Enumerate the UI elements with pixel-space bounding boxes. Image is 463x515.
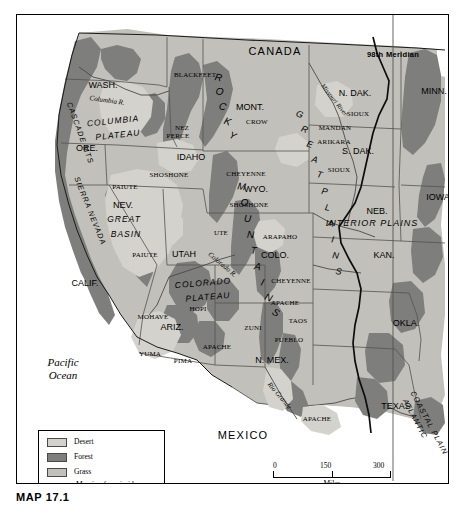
state-label-sdak: S. DAK. [342,147,374,156]
tribe-label-pima-23: PIMA [174,358,192,365]
tribe-label-apache-25: APACHE [303,416,332,423]
tribe-label-apache-24: APACHE [203,344,232,351]
tribe-label-arikara-6: ARIKARA [317,139,350,146]
legend-item-forest: Forest [47,453,93,462]
scale-unit-label: Miles [273,479,391,484]
arc-label-plains-letter-4: N [332,251,341,261]
tribe-label-ute-13: UTE [214,230,228,237]
physiographic-label-interiorplains-6: INTERIOR PLAINS [326,219,419,228]
tribe-label-pueblo-20: PUEBLO [275,337,303,344]
tribe-label-yuma-22: YUMA [139,351,161,358]
tribe-label-crow-1: CROW [246,119,268,126]
arc-label-mountains-letter-1: O [240,198,250,209]
tribe-label-shoshone-4: SHOSHONE [150,172,189,179]
tribe-label-taos-19: TAOS [289,318,308,325]
tribe-label-blackfeet-0: BLACKFEET [174,72,216,79]
state-label-neb: NEB. [366,207,387,216]
legend-swatch-desert [47,438,67,447]
arc-label-mountains-letter-4: T [250,246,258,257]
ocean-label-1: Ocean [49,370,78,381]
legend-swatch-forest [47,453,67,462]
state-label-kan: KAN. [373,251,394,260]
country-label-mexico: MEXICO [218,430,269,441]
state-label-calif: CALIF. [71,279,98,288]
arc-label-mountains-letter-5: A [253,261,262,272]
state-label-mont: MONT. [236,103,264,112]
tribe-label-paiute-12: PAIUTE [132,252,157,259]
legend-label-forest: Forest [74,453,93,462]
scale-bar: 0 150 300 Miles [273,461,391,484]
scale-tick-0: 0 [273,461,277,470]
state-label-idaho: IDAHO [177,153,206,162]
state-label-iowa: IOWA [426,193,449,202]
legend-item-desert: Desert [47,438,94,447]
state-label-ariz: ARIZ. [160,323,183,332]
arc-label-plains-letter-5: S [335,267,343,277]
legend-item-grass: Grass [47,468,91,477]
arc-label-mountains-letter-2: U [244,214,253,225]
state-label-nev: NEV. [113,201,133,210]
state-label-wyo: WYO. [244,185,268,194]
state-label-nmex: N. MEX. [255,356,289,365]
state-label-colo: COLO. [261,251,289,260]
arc-label-great-letter-4: T [316,170,324,180]
tribe-label-mandan-5: MANDAN [319,125,352,132]
tribe-label-paiute-11: PAIUTE [112,184,137,191]
country-label-canada: CANADA [248,46,301,57]
tribe-label-sioux-8: SIOUX [328,167,350,174]
legend-item-semiarid-margin: Margin of semiarid west (20° rainfall) [47,481,134,484]
tribe-label-sioux-7: SIOUX [347,111,369,118]
legend-label-grass: Grass [74,468,91,477]
semiarid-line-1: Margin of semiarid [76,480,134,484]
scale-tick-2: 300 [373,461,384,470]
arc-label-mountains-letter-3: N [247,230,256,241]
map-legend: Desert Forest Grass Margin of semiarid w… [38,430,165,484]
arc-label-plains-letter-2: A [327,219,335,229]
legend-swatch-grass [47,468,67,477]
state-label-wash: WASH. [88,81,117,90]
physiographic-label-great-2: GREAT [107,215,141,224]
state-label-utah: UTAH [172,250,196,259]
tribe-label-mohave-21: MOHAVE [137,314,168,321]
state-label-minn: MINN. [421,87,447,96]
state-label-ndak: N. DAK. [339,89,372,98]
legend-label-desert: Desert [74,438,94,447]
tribe-label-perce-3: PERCE [167,133,190,140]
map-caption: MAP 17.1 [16,491,70,503]
tribe-label-nez-2: NEZ [175,125,189,132]
arc-label-mountains-letter-0: M [237,181,248,192]
legend-label-semiarid: Margin of semiarid west (20° rainfall) [76,481,134,484]
tribe-label-cheyenne-15: CHEYENNE [271,278,310,285]
state-label-okla: OKLA. [393,319,420,328]
ocean-label-0: Pacific [47,357,78,368]
scale-bar-rule [273,471,391,478]
tribe-label-cheyenne-9: CHEYENNE [226,171,265,178]
tribe-label-hopi-17: HOPI [189,306,206,313]
map-graphic [17,15,446,481]
scale-tick-1: 150 [320,461,331,470]
scale-numbers: 0 150 300 [273,461,391,471]
map-page: CANADAMEXICOPacificOceanWASH.ORE.IDAHOMO… [0,0,463,515]
tribe-label-zuni-18: ZUNI [244,325,262,332]
map-frame: CANADAMEXICOPacificOceanWASH.ORE.IDAHOMO… [16,14,449,484]
meridian-label: 98th Meridian [367,51,419,59]
tribe-label-arapaho-14: ARAPAHO [263,234,298,241]
physiographic-label-basin-3: BASIN [111,230,142,239]
